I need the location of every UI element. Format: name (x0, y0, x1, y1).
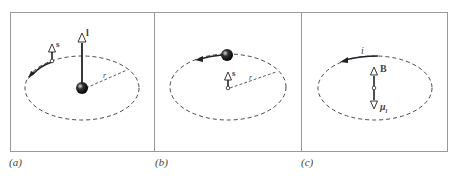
electron-motion-arrow (32, 62, 52, 75)
label-B: B (380, 63, 387, 74)
caption-a: (a) (9, 156, 22, 168)
orbital-vector-l-icon (78, 33, 86, 42)
orbit-diagram (0, 0, 454, 176)
nucleus-ball (76, 82, 88, 94)
radius-line (230, 72, 276, 88)
moment-vector-mu-icon (371, 101, 378, 109)
label-s: s (56, 39, 60, 49)
spin-vector-s-icon (49, 44, 56, 52)
label-l: l (86, 27, 89, 38)
panel-c (318, 56, 432, 120)
radius-line (86, 70, 127, 88)
panel-a (25, 33, 139, 120)
panel-b (170, 49, 286, 120)
field-vector-B-icon (371, 67, 378, 75)
current-arrow (345, 56, 378, 60)
label-mu: μl (380, 101, 387, 114)
caption-c: (c) (301, 156, 313, 168)
mu-subscript: l (386, 108, 388, 114)
electron-motion-arrow (200, 55, 222, 59)
arrowhead-icon (340, 57, 348, 63)
electron-ball (221, 49, 233, 61)
label-r: r (249, 73, 252, 82)
panel-frames (11, 12, 448, 152)
spin-vector-s-icon (225, 72, 232, 80)
label-i: i (361, 45, 364, 56)
label-s: s (232, 68, 236, 78)
caption-b: (b) (155, 156, 168, 168)
label-r: r (103, 71, 106, 80)
